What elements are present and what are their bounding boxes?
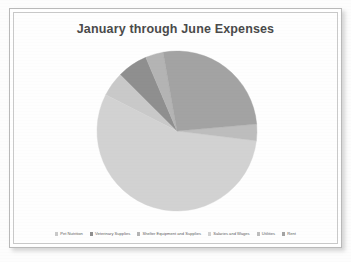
pie-plot-area xyxy=(14,13,337,243)
legend-item-label: Salaries and Wages xyxy=(213,232,249,236)
legend-item-label: Rent xyxy=(287,232,296,236)
legend-swatch-icon xyxy=(137,232,140,235)
chart-legend: Pet NutritionVeterinary SuppliesShelter … xyxy=(14,232,337,236)
legend-swatch-icon xyxy=(282,232,285,235)
legend-item-label: Utilities xyxy=(262,232,275,236)
legend-item[interactable]: Veterinary Supplies xyxy=(90,232,130,236)
pie-slice[interactable] xyxy=(163,51,257,131)
legend-item-label: Pet Nutrition xyxy=(60,232,83,236)
legend-item[interactable]: Rent xyxy=(282,232,296,236)
legend-item[interactable]: Pet Nutrition xyxy=(55,232,83,236)
pie-chart: January through June Expenses Pet Nutrit… xyxy=(14,13,337,243)
pie-svg xyxy=(14,13,339,245)
legend-item-label: Veterinary Supplies xyxy=(95,232,130,236)
legend-swatch-icon xyxy=(90,232,93,235)
chart-inner-frame: January through June Expenses Pet Nutrit… xyxy=(13,12,338,244)
legend-item[interactable]: Shelter Equipment and Supplies xyxy=(137,232,201,236)
pie-slice-group xyxy=(97,51,257,211)
legend-swatch-icon xyxy=(257,232,260,235)
legend-item[interactable]: Salaries and Wages xyxy=(208,232,250,236)
legend-item[interactable]: Utilities xyxy=(257,232,275,236)
scanned-page-background: January through June Expenses Pet Nutrit… xyxy=(0,0,351,262)
legend-swatch-icon xyxy=(55,232,58,235)
legend-swatch-icon xyxy=(208,232,211,235)
legend-item-label: Shelter Equipment and Supplies xyxy=(142,232,201,236)
chart-outer-frame: January through June Expenses Pet Nutrit… xyxy=(9,8,342,248)
